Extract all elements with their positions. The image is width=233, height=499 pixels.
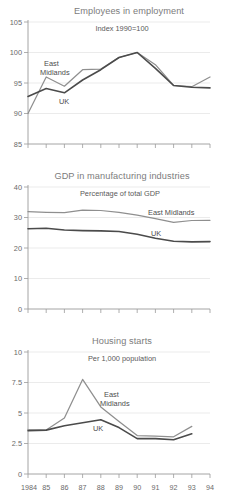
x-axis-ticks	[28, 474, 210, 478]
series-annotation-east: East	[44, 59, 59, 68]
x-tick-label: 94	[206, 483, 214, 492]
series-annotation-east: East	[104, 390, 119, 399]
chart-subtitle: Per 1,000 population	[88, 354, 156, 363]
x-tick-label: 85	[42, 483, 50, 492]
x-tick-label: 88	[97, 483, 105, 492]
y-tick-label: 30	[14, 213, 22, 222]
series-annotation-uk: UK	[93, 424, 103, 433]
series-line-uk	[28, 228, 210, 242]
y-tick-label: 5	[18, 409, 22, 418]
series-annotation-uk: UK	[151, 229, 161, 238]
y-tick-label: 10	[14, 274, 22, 283]
y-axis-ticks: 105 100 95 90 85	[10, 18, 28, 149]
gridlines	[28, 352, 210, 444]
chart-panel-housing: Housing starts Per 1,000 population 10 7…	[0, 330, 233, 499]
y-tick-label: 95	[14, 79, 22, 88]
series-annotation-midlands: Midlands	[40, 68, 70, 77]
chart-svg-housing: Housing starts Per 1,000 population 10 7…	[0, 330, 233, 499]
y-tick-label: 90	[14, 109, 22, 118]
y-tick-label: 40	[14, 183, 22, 192]
series-annotation-uk: UK	[59, 97, 69, 106]
x-tick-label: 87	[79, 483, 87, 492]
series-annotation-east-midlands: East Midlands	[148, 208, 195, 217]
y-tick-label: 10	[14, 348, 22, 357]
y-tick-label: 20	[14, 244, 22, 253]
gridlines	[28, 187, 210, 279]
chart-svg-employees: Employees in employment Index 1990=100 1…	[0, 0, 233, 165]
chart-panel-employees: Employees in employment Index 1990=100 1…	[0, 0, 233, 165]
x-tick-label: 1984	[21, 483, 37, 492]
y-tick-label: 2.5	[12, 439, 22, 448]
x-axis-ticks	[28, 309, 210, 313]
chart-title: Employees in employment	[74, 6, 184, 16]
y-tick-label: 7.5	[12, 378, 22, 387]
chart-panel-gdp: GDP in manufacturing industries Percenta…	[0, 165, 233, 330]
y-tick-label: 0	[18, 305, 22, 314]
x-tick-label: 91	[151, 483, 159, 492]
chart-title: Housing starts	[92, 336, 152, 346]
y-tick-label: 0	[18, 470, 22, 479]
chart-svg-gdp: GDP in manufacturing industries Percenta…	[0, 165, 233, 330]
y-axis-ticks: 40 30 20 10 0	[14, 183, 28, 314]
x-axis-labels: 1984 85 86 87 88 89 90 91 92 93 94	[21, 483, 214, 492]
x-tick-label: 93	[188, 483, 196, 492]
chart-subtitle: Percentage of total GDP	[80, 189, 160, 198]
figure-container: Employees in employment Index 1990=100 1…	[0, 0, 233, 499]
chart-subtitle: Index 1990=100	[95, 24, 148, 33]
series-annotation-midlands: Midlands	[100, 399, 130, 408]
y-tick-label: 100	[10, 48, 22, 57]
x-axis-ticks	[28, 144, 210, 148]
x-tick-label: 92	[170, 483, 178, 492]
x-tick-label: 90	[133, 483, 141, 492]
x-tick-label: 86	[60, 483, 68, 492]
y-axis-ticks: 10 7.5 5 2.5 0	[12, 348, 28, 479]
y-tick-label: 85	[14, 140, 22, 149]
y-tick-label: 105	[10, 18, 22, 27]
x-tick-label: 89	[115, 483, 123, 492]
chart-title: GDP in manufacturing industries	[54, 171, 189, 181]
